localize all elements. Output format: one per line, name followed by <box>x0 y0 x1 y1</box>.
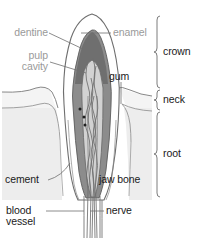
region-label-crown: crown <box>163 46 191 58</box>
label-cavity: cavity <box>0 61 48 73</box>
jaw-bone-left <box>2 108 62 200</box>
region-brackets-group <box>154 16 160 197</box>
tissue-dot <box>83 116 86 119</box>
label-nerve: nerve <box>106 205 132 217</box>
label-gum: gum <box>109 71 129 83</box>
tissue-dot <box>84 124 87 127</box>
bracket-neck <box>154 90 160 110</box>
bracket-crown <box>154 16 160 88</box>
region-label-neck: neck <box>163 94 185 106</box>
bracket-root <box>154 112 160 197</box>
label-vessel: vessel <box>6 216 35 228</box>
label-cement: cement <box>5 174 39 186</box>
jaw-bone-right <box>124 108 152 200</box>
label-jaw-bone: jaw bone <box>99 174 140 186</box>
region-label-root: root <box>163 148 181 160</box>
label-enamel: enamel <box>113 27 147 39</box>
tooth-anatomy-diagram: dentine pulp cavity enamel gum cement ja… <box>0 0 200 238</box>
tissue-dot <box>79 108 82 111</box>
label-dentine: dentine <box>0 27 48 39</box>
